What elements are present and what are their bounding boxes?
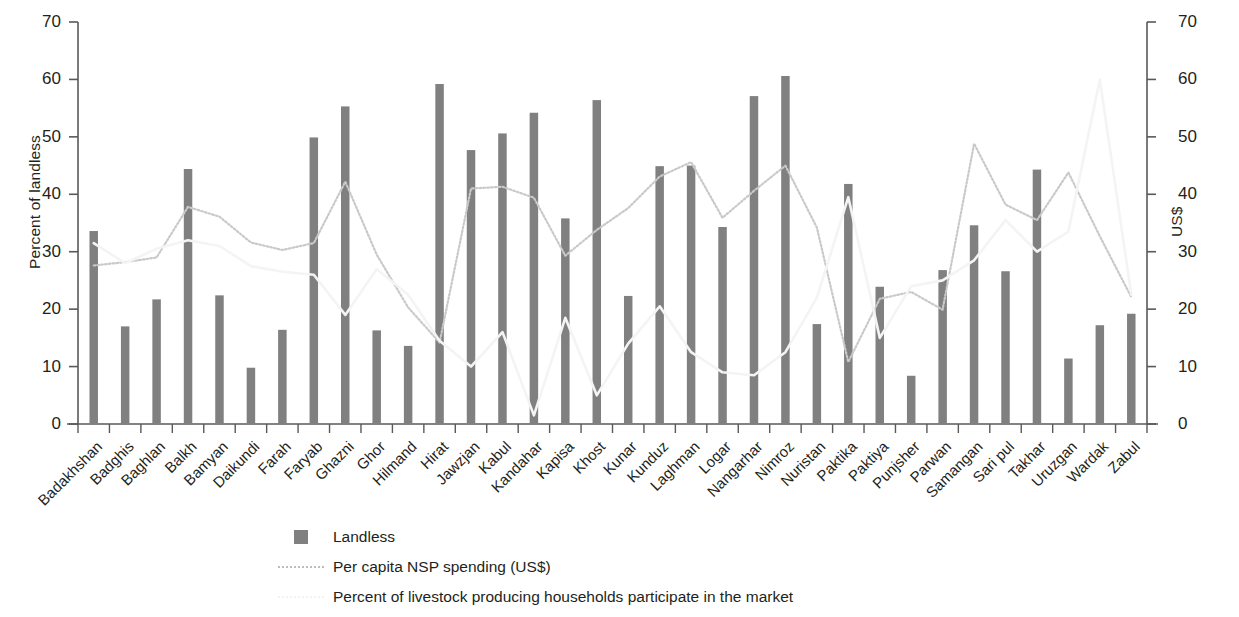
bar-punjsher <box>907 376 915 424</box>
chart-figure: Percent of landless US$ 010203040506070 … <box>0 0 1239 617</box>
bar-sari-pul <box>1001 271 1009 424</box>
bar-khost <box>593 100 601 424</box>
legend-item-2: Percent of livestock producing household… <box>275 582 1035 612</box>
bar-laghman <box>687 166 695 424</box>
legend-key-bar-swatch <box>275 530 327 544</box>
bar-nuristan <box>813 324 821 424</box>
bar-farah <box>278 330 286 424</box>
bar-paktiya <box>876 287 884 424</box>
bar-daikundi <box>247 368 255 424</box>
chart-legend: LandlessPer capita NSP spending (US$)Per… <box>275 522 1035 612</box>
bar-nimroz <box>781 76 789 424</box>
bar-ghor <box>372 330 380 424</box>
bar-badghis <box>121 326 129 424</box>
bar-kabul <box>498 133 506 424</box>
bar-kunar <box>624 296 632 424</box>
bar-bamyan <box>215 295 223 424</box>
bar-logar <box>718 227 726 424</box>
bar-kandahar <box>530 113 538 424</box>
legend-label-1: Per capita NSP spending (US$) <box>327 558 551 576</box>
legend-item-0: Landless <box>275 522 1035 552</box>
bar-kunduz <box>655 166 663 424</box>
legend-item-1: Per capita NSP spending (US$) <box>275 552 1035 582</box>
bar-uruzgan <box>1064 359 1072 424</box>
dotted-line-swatch-glyph <box>278 566 324 568</box>
faint-line-swatch-glyph <box>278 596 324 598</box>
bar-hilmand <box>404 346 412 424</box>
bar-swatch-glyph <box>294 530 308 544</box>
bar-hirat <box>435 84 443 424</box>
bar-paktika <box>844 184 852 424</box>
legend-label-2: Percent of livestock producing household… <box>327 588 793 606</box>
bar-zabul <box>1127 314 1135 424</box>
legend-key-faint-line-swatch <box>275 596 327 598</box>
bar-baghlan <box>152 299 160 424</box>
legend-key-dotted-line-swatch <box>275 566 327 568</box>
legend-label-0: Landless <box>327 528 395 546</box>
bar-takhar <box>1033 170 1041 424</box>
bar-badakhshan <box>89 231 97 424</box>
bar-faryab <box>310 137 318 424</box>
bar-wardak <box>1096 325 1104 424</box>
bar-ghazni <box>341 106 349 424</box>
